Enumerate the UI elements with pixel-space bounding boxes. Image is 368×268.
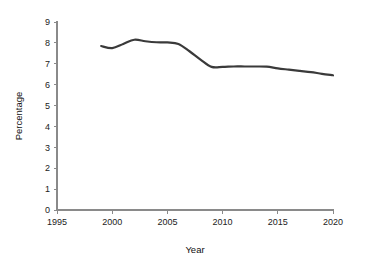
- y-tick-label: 3: [45, 143, 50, 153]
- y-tick-label: 0: [45, 205, 50, 215]
- line-chart: 0123456789 199520002005201020152020 Year…: [0, 0, 368, 268]
- y-tick-label: 8: [45, 38, 50, 48]
- x-axis-title: Year: [185, 244, 204, 255]
- data-series-line: [101, 40, 333, 76]
- x-tick-label: 2005: [157, 217, 177, 227]
- y-axis-title: Percentage: [13, 92, 24, 141]
- x-tick-label: 2015: [268, 217, 288, 227]
- chart-container: 0123456789 199520002005201020152020 Year…: [0, 0, 368, 268]
- x-tick-label: 1995: [47, 217, 67, 227]
- y-tick-label: 4: [45, 122, 50, 132]
- y-tick-label: 7: [45, 59, 50, 69]
- x-tick-label: 2000: [102, 217, 122, 227]
- x-axis-tick-labels: 199520002005201020152020: [47, 217, 343, 227]
- y-tick-label: 2: [45, 163, 50, 173]
- x-tick-label: 2020: [323, 217, 343, 227]
- x-tick-label: 2010: [213, 217, 233, 227]
- x-axis-tick-marks: [57, 210, 333, 214]
- y-axis-tick-labels: 0123456789: [45, 17, 50, 215]
- y-tick-label: 6: [45, 80, 50, 90]
- y-tick-label: 9: [45, 17, 50, 27]
- y-tick-label: 5: [45, 101, 50, 111]
- y-tick-label: 1: [45, 184, 50, 194]
